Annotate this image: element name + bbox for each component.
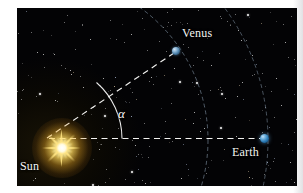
- star: [57, 101, 58, 102]
- star: [17, 91, 18, 92]
- star: [224, 149, 225, 150]
- star: [249, 17, 250, 18]
- star: [183, 44, 184, 45]
- earth-planet-icon: [260, 134, 269, 143]
- star: [294, 132, 295, 133]
- star: [221, 93, 223, 95]
- star: [64, 22, 65, 23]
- star: [288, 144, 289, 145]
- star: [172, 9, 173, 10]
- star: [206, 173, 207, 174]
- star: [227, 21, 228, 22]
- sun-core: [56, 142, 68, 154]
- star: [247, 14, 249, 16]
- star: [44, 67, 45, 68]
- star: [179, 81, 181, 83]
- star: [242, 82, 243, 83]
- star: [273, 44, 274, 45]
- star: [65, 68, 66, 69]
- star: [110, 38, 111, 39]
- star: [151, 77, 152, 78]
- star: [211, 65, 212, 66]
- star: [105, 108, 106, 109]
- star: [91, 114, 92, 115]
- star: [144, 123, 145, 124]
- star: [144, 29, 145, 30]
- star: [122, 24, 123, 25]
- star: [129, 102, 130, 103]
- star: [91, 64, 92, 65]
- star: [225, 98, 226, 99]
- star: [203, 60, 204, 61]
- star: [134, 182, 135, 183]
- star: [252, 55, 253, 56]
- star: [192, 82, 193, 83]
- star: [262, 110, 263, 111]
- venus-label: Venus: [182, 27, 212, 39]
- star: [21, 99, 22, 100]
- star: [270, 168, 271, 169]
- star: [138, 169, 139, 170]
- star: [204, 128, 205, 129]
- star: [168, 22, 169, 23]
- star: [276, 78, 277, 79]
- star: [198, 10, 199, 11]
- star: [97, 142, 98, 143]
- star: [197, 57, 198, 58]
- star: [223, 160, 224, 161]
- star: [230, 24, 231, 25]
- star: [43, 54, 44, 55]
- star: [245, 59, 246, 60]
- star: [281, 143, 282, 144]
- star: [200, 118, 201, 119]
- star: [270, 12, 271, 13]
- star: [221, 18, 222, 19]
- earth-label: Earth: [232, 146, 259, 158]
- star: [252, 75, 253, 76]
- star: [167, 12, 168, 13]
- star: [294, 94, 295, 95]
- star: [171, 103, 172, 104]
- star: [165, 121, 166, 122]
- star: [153, 84, 154, 85]
- star: [183, 144, 184, 145]
- star: [132, 140, 133, 141]
- star: [210, 90, 211, 91]
- star: [269, 127, 270, 128]
- star: [22, 63, 23, 64]
- star: [219, 53, 220, 54]
- star: [26, 11, 27, 12]
- star: [142, 18, 143, 19]
- star: [36, 96, 37, 97]
- star: [93, 159, 94, 160]
- star: [294, 59, 295, 60]
- star: [147, 50, 148, 51]
- star: [163, 27, 164, 28]
- star: [90, 39, 91, 40]
- star: [64, 183, 65, 184]
- star: [235, 14, 236, 15]
- star: [291, 16, 292, 17]
- star: [35, 178, 36, 179]
- star: [194, 112, 195, 113]
- star: [82, 24, 83, 25]
- star: [114, 86, 115, 87]
- star: [108, 91, 109, 92]
- star: [176, 22, 177, 23]
- star: [160, 136, 161, 137]
- star: [92, 184, 94, 186]
- star: [256, 64, 257, 65]
- star: [54, 54, 55, 55]
- star: [182, 24, 183, 25]
- star: [126, 102, 127, 103]
- night-sky-panel: [17, 8, 297, 186]
- star: [285, 42, 286, 43]
- star: [220, 87, 221, 88]
- star: [136, 156, 137, 157]
- star: [132, 92, 133, 93]
- star: [115, 77, 116, 78]
- star: [131, 116, 132, 117]
- elongation-angle-label: α: [118, 107, 125, 120]
- star: [187, 23, 188, 24]
- star: [167, 26, 168, 27]
